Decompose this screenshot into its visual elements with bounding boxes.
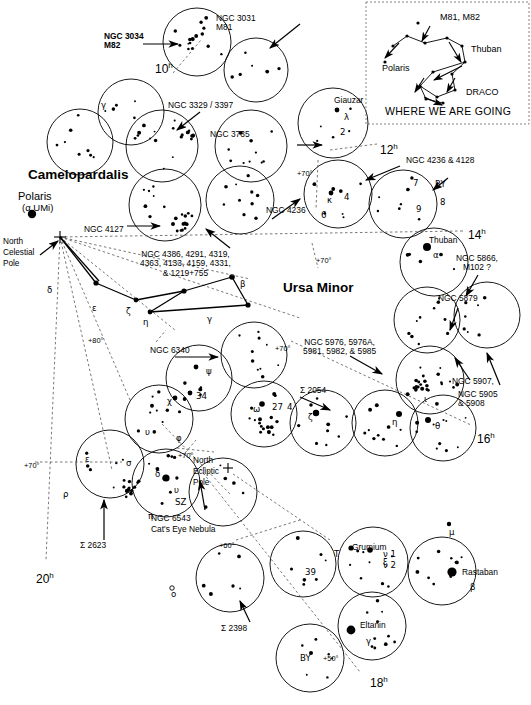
star-dot (134, 137, 137, 140)
hour-label-20h: 20h (36, 572, 54, 586)
declination-label: +80° (88, 337, 104, 345)
star-dot (265, 70, 269, 74)
star-dot (112, 107, 116, 111)
galaxy-dot (201, 32, 205, 36)
star-dot (86, 464, 90, 468)
hour-label-16h: 16h (477, 432, 495, 446)
star-label-: ρ (63, 490, 68, 500)
finder-circle (126, 110, 198, 182)
galaxy-dot (267, 430, 271, 434)
star-dot (444, 318, 447, 321)
galaxy-dot (126, 488, 129, 491)
star-dot (254, 217, 257, 220)
star-dot (189, 42, 192, 45)
hour-label-14h: 14h (468, 228, 486, 242)
star-dot (142, 124, 146, 128)
star-eltanin (347, 626, 356, 635)
arrow-ngc4236-4128 (366, 166, 400, 180)
galaxy-dot (133, 486, 136, 489)
star-dot (251, 359, 255, 363)
star-label-9: 9 (416, 205, 421, 215)
constellation-ursa-minor: Ursa Minor (283, 280, 354, 295)
star-dot (224, 185, 228, 189)
star-dot (122, 485, 125, 488)
galaxy-dot (176, 230, 179, 233)
star-dot (161, 502, 164, 505)
star-dot (342, 216, 344, 218)
galaxy-dot (187, 48, 190, 51)
galaxy-dot (259, 431, 262, 434)
star-dot (410, 335, 414, 339)
star-dot (152, 185, 154, 187)
star-dot (148, 190, 150, 192)
star-dot (86, 149, 89, 152)
star-dot (467, 331, 469, 333)
star-dot (163, 168, 165, 170)
galaxy-dot (191, 215, 194, 218)
star-dot (209, 592, 213, 596)
star-dot (384, 642, 388, 646)
star-label-: λ (344, 113, 349, 123)
finder-circle (221, 322, 287, 388)
hour-label-10h: 10h (155, 62, 173, 76)
north-celestial-pole-label: North Celestial Pole (3, 236, 34, 269)
star-name-thuban: Thuban (429, 236, 457, 245)
star-dot (463, 327, 466, 330)
nep-cross (223, 463, 233, 473)
galaxy-dot (174, 216, 178, 220)
star-dot (69, 128, 73, 132)
arrow-sigma2054 (300, 397, 330, 410)
star-label-: ε (92, 304, 97, 314)
star-dot (262, 427, 265, 430)
declination-label: +70° (275, 345, 291, 353)
star-dot (349, 108, 352, 111)
star-label-: ζ (126, 307, 131, 317)
star-dot (416, 320, 418, 322)
star-dot (247, 174, 250, 177)
star-dot (313, 182, 317, 186)
galaxy-dot (184, 227, 187, 230)
label-ngc-3031-m81: NGC 3031 M81 (216, 14, 256, 33)
star-dot (202, 27, 205, 30)
declination-label: +70° (24, 462, 40, 470)
star-dot (93, 156, 95, 158)
finder-circle (47, 109, 113, 175)
star-dot (178, 410, 181, 413)
star-chart: Camelopardalis Ursa Minor Polaris (α UMi… (0, 0, 531, 705)
star-dot (399, 429, 401, 431)
star-dot (326, 422, 330, 426)
arrow-ngc5976 (350, 356, 382, 374)
star-dot (238, 334, 240, 336)
star-chi (173, 396, 178, 401)
inset-label-polaris: Polaris (382, 63, 410, 73)
hour-unit: h (393, 142, 397, 151)
galaxy-dot (125, 495, 128, 498)
star-dot (349, 564, 351, 566)
galaxy-dot (180, 135, 183, 138)
star-dot (270, 130, 273, 133)
star-dot (432, 583, 435, 586)
star-rastaban (447, 567, 456, 576)
star-label-: ψ (206, 367, 212, 377)
galaxy-dot (194, 34, 198, 38)
label-sigma-2054: Σ 2054 (300, 386, 326, 395)
star-dot (129, 480, 131, 482)
star-dot (220, 53, 222, 55)
star-dot (169, 491, 172, 494)
star-dot (452, 386, 455, 389)
hour-value: 20 (36, 572, 49, 586)
star-dot (439, 367, 441, 369)
star-dot (156, 410, 158, 412)
star-dot (483, 296, 487, 300)
galaxy-dot (420, 387, 424, 391)
star-label-o: o (171, 590, 176, 600)
star-label-: γ (101, 101, 106, 111)
star-label-: β (470, 583, 476, 593)
star-dot (242, 492, 245, 495)
star-dot (237, 555, 241, 559)
star-dot (368, 561, 370, 563)
star-dot (387, 635, 390, 638)
star-dot (229, 159, 232, 162)
star-dot (325, 559, 327, 561)
star-dot (239, 73, 242, 76)
